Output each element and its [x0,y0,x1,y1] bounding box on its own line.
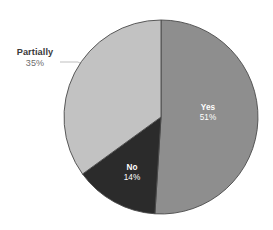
slice-label-partially-name: Partially [4,47,66,58]
slice-label-yes: Yes 51% [188,103,228,122]
pie-chart-figure: Yes 51% No 14% Partially 35% [0,0,273,230]
slice-label-partially-value: 35% [4,58,66,69]
slice-label-partially: Partially 35% [4,47,66,68]
pie-slices-group [64,20,258,214]
slice-label-yes-name: Yes [188,103,228,113]
pie-chart-canvas [0,0,273,230]
slice-label-no: No 14% [112,163,152,182]
slice-label-yes-value: 51% [188,113,228,123]
slice-label-no-value: 14% [112,173,152,183]
slice-label-no-name: No [112,163,152,173]
